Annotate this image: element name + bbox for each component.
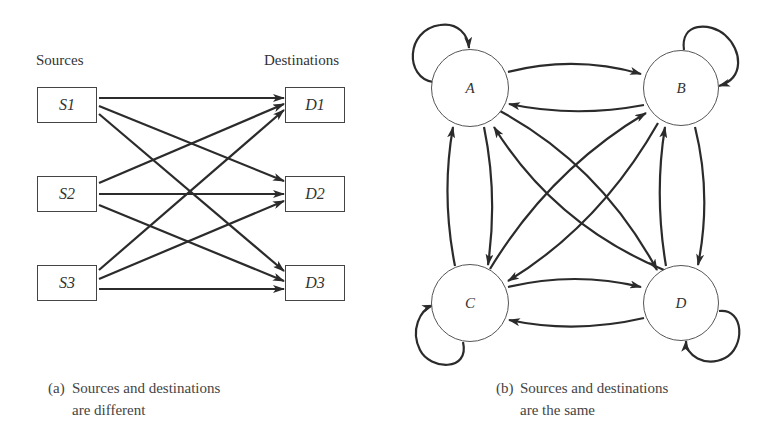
source-box-s3: S3 bbox=[37, 265, 97, 301]
caption-b-line2: are the same bbox=[496, 399, 668, 421]
caption-a: (a)Sources and destinations are differen… bbox=[48, 377, 220, 421]
edge-a-d bbox=[500, 111, 657, 270]
figure-canvas: Sources Destinations S1 S2 S3 D1 D2 D3 A… bbox=[0, 0, 770, 443]
source-box-s2: S2 bbox=[37, 176, 97, 212]
edge-s2-d1 bbox=[99, 104, 284, 183]
edge-b-d bbox=[695, 127, 704, 265]
caption-b: (b)Sources and destinations are the same bbox=[496, 377, 668, 421]
edge-s3-d2 bbox=[99, 201, 284, 279]
caption-b-tag: (b) bbox=[496, 377, 520, 399]
edge-b-a bbox=[509, 104, 644, 111]
edge-s3-d1 bbox=[99, 110, 284, 270]
node-c: C bbox=[431, 264, 509, 342]
caption-a-line2: are different bbox=[48, 399, 220, 421]
edge-s2-d3 bbox=[99, 205, 284, 281]
destination-box-d2: D2 bbox=[285, 176, 345, 212]
edge-d-c bbox=[509, 318, 644, 327]
source-box-s1: S1 bbox=[37, 87, 97, 123]
sources-heading: Sources bbox=[36, 52, 84, 69]
caption-a-tag: (a) bbox=[48, 377, 72, 399]
node-a: A bbox=[431, 49, 509, 127]
destination-box-d1: D1 bbox=[285, 87, 345, 123]
destinations-heading: Destinations bbox=[264, 52, 339, 69]
node-d: D bbox=[643, 265, 719, 341]
edge-d-b bbox=[660, 127, 666, 266]
edge-c-d bbox=[508, 279, 641, 287]
bipartite-edges bbox=[99, 98, 284, 289]
caption-a-line1: Sources and destinations bbox=[72, 380, 220, 396]
caption-b-line1: Sources and destinations bbox=[520, 380, 668, 396]
edge-a-b bbox=[508, 64, 641, 74]
node-b: B bbox=[643, 50, 719, 126]
edge-d-a bbox=[494, 127, 664, 270]
destination-box-d3: D3 bbox=[285, 265, 345, 301]
edge-c-a bbox=[447, 127, 455, 266]
edge-c-b bbox=[490, 113, 646, 269]
edge-a-c bbox=[484, 127, 492, 265]
